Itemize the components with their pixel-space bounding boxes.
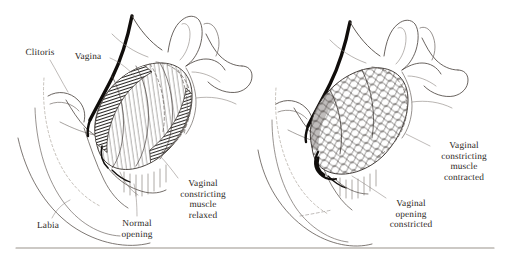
label-muscle-contracted: Vaginal constricting muscle contracted (441, 141, 487, 183)
anatomical-figure: Clitoris Vagina Labia Normal opening Vag… (0, 0, 508, 259)
label-vagina: Vagina (75, 52, 102, 63)
label-muscle-relaxed: Vaginal constricting muscle relaxed (180, 179, 226, 221)
right-panel-art (258, 20, 468, 246)
label-opening-constricted: Vaginal opening constricted (390, 199, 432, 231)
label-labia: Labia (37, 221, 59, 232)
label-normal-opening: Normal opening (121, 219, 152, 240)
label-clitoris: Clitoris (25, 48, 54, 59)
